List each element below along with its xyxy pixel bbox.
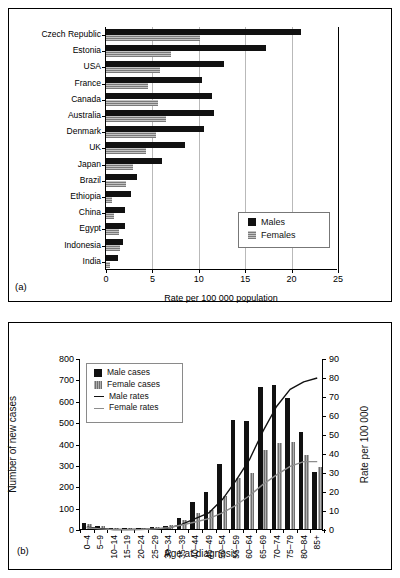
y-tick-label-100: 100 [59,504,74,514]
bar-females [106,35,200,41]
panel-b-x-axis-title: Age at diagnosis [79,548,323,559]
legend-swatch-female-cases-icon [94,381,102,389]
legend-label-male-cases: Male cases [107,368,150,378]
bar-females [106,229,119,235]
bar-group: France [106,76,337,92]
legend-item-females: Females [248,230,329,240]
bar-males [106,110,214,116]
y2-tick-label-0: 0 [329,525,334,535]
legend-swatch-males-icon [248,218,256,226]
bar-males [106,77,202,83]
bar-females [106,67,160,73]
bar-females [106,213,114,219]
category-label: India [83,257,101,266]
y2-tick-label-30: 30 [329,468,339,478]
y2-tick-label-80: 80 [329,373,339,383]
bar-females [106,262,110,268]
bar-females [106,100,158,106]
legend-label-females: Females [261,230,296,240]
bar-males [106,45,266,51]
bar-females [106,132,156,138]
category-label: Indonesia [64,241,101,250]
category-label: Brazil [80,176,101,185]
bar-group: USA [106,59,337,75]
category-label: Czech Republic [41,30,101,39]
bar-females [106,83,148,89]
y-tick-label-500: 500 [59,418,74,428]
y-tick-label-400: 400 [59,440,74,450]
category-label: Ethiopia [70,192,101,201]
category-label: Australia [68,111,101,120]
x-tick-label-5: 5 [150,274,155,284]
category-label: USA [84,62,101,71]
category-label: Egypt [79,224,101,233]
y-tick-label-200: 200 [59,482,74,492]
y-tick-label-600: 600 [59,397,74,407]
gridline-x-25 [338,27,339,269]
x-tick-label-20: 20 [287,274,297,284]
bar-males [106,126,204,132]
bar-group: UK [106,140,337,156]
y2-tick-label-50: 50 [329,430,339,440]
legend-label-female-rates: Female rates [109,403,159,413]
legend-item-male-cases: Male cases [94,368,182,378]
bar-females [106,51,171,57]
bar-group: Czech Republic [106,27,337,43]
legend-line-female-rates-icon [94,408,104,409]
legend-label-male-rates: Male rates [109,392,149,402]
x-tick-label-15: 15 [240,274,250,284]
bar-males [106,239,123,245]
panel-a-international-rates: (a) 0510152025Czech RepublicEstoniaUSAFr… [8,8,392,302]
category-label: Denmark [67,127,101,136]
legend-swatch-females-icon [248,231,256,239]
legend-swatch-male-cases-icon [94,369,102,377]
bar-group: India [106,254,337,270]
bar-group: Denmark [106,124,337,140]
bar-group: Estonia [106,43,337,59]
category-label: Canada [71,95,101,104]
category-label: Estonia [73,46,101,55]
x-tick-label-25: 25 [333,274,343,284]
bar-males [106,158,162,164]
panel-b-legend: Male cases Female cases Male rates Femal… [86,363,183,423]
bar-females [106,245,120,251]
bar-males [106,93,212,99]
y2-tick-label-40: 40 [329,449,339,459]
bar-males [106,142,185,148]
y2-tick-label-20: 20 [329,487,339,497]
category-label: Japan [78,160,101,169]
panel-b-y-axis-title-text: Number of new cases [7,396,18,493]
legend-item-males: Males [248,217,329,227]
bar-group: Australia [106,108,337,124]
bar-group: Brazil [106,173,337,189]
bar-males [106,29,301,35]
panel-b-y2-axis-title: Rate per 100 000 [357,359,371,530]
bar-females [106,197,112,203]
figure-page: (a) 0510152025Czech RepublicEstoniaUSAFr… [0,0,400,578]
x-tick-25 [338,269,339,273]
bar-females [106,116,166,122]
panel-b-y-axis-title: Number of new cases [5,359,19,530]
category-label: UK [89,143,101,152]
legend-item-female-rates: Female rates [94,403,182,413]
bar-group: Canada [106,92,337,108]
x-tick [324,529,325,533]
bar-males [106,255,118,261]
panel-b-label: (b) [17,545,29,556]
legend-label-female-cases: Female cases [107,380,160,390]
x-tick-label-10: 10 [194,274,204,284]
panel-b-age-specific: (b) 010020030040050060070080001020304050… [8,322,392,570]
y2-tick-label-10: 10 [329,506,339,516]
y-tick-label-700: 700 [59,375,74,385]
category-label: France [75,79,101,88]
bar-group: Ethiopia [106,189,337,205]
panel-a-x-axis-title: Rate per 100 000 population [105,293,337,303]
bar-females [106,164,133,170]
panel-b-y2-axis-title-text: Rate per 100 000 [359,406,370,483]
y2-tick-label-70: 70 [329,392,339,402]
category-label: China [79,208,101,217]
bar-males [106,207,125,213]
y2-tick-label-60: 60 [329,411,339,421]
bar-females [106,181,126,187]
bar-males [106,174,137,180]
